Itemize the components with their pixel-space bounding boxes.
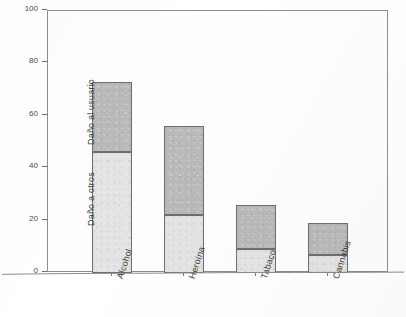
y-tick-label: 40 [29,161,38,170]
bar-segment-user-harm [236,205,276,250]
bar-chart: DAÑO GENERAL 020406080100 Daño al usuari… [0,0,406,317]
x-tick-mark [327,272,328,276]
bar-alcohol [92,82,132,273]
bar-segment-user-harm [164,126,204,215]
x-tick-mark [111,272,112,276]
y-tick-label: 80 [29,56,38,65]
x-tick-mark [183,272,184,276]
y-tick-label: 0 [34,266,38,275]
annotation-others-harm: Daño a otros [86,173,96,227]
x-tick-mark [255,272,256,276]
y-tick-label: 60 [29,109,38,118]
annotation-user-harm: Daño al usuario [86,79,96,145]
bar-segment-user-harm [92,82,132,153]
y-tick-label: 20 [29,214,38,223]
plot-area: Daño al usuarioDaño a otros [47,10,388,272]
y-tick-label: 100 [25,4,38,13]
